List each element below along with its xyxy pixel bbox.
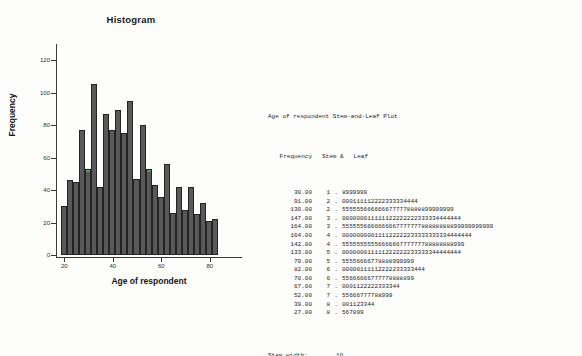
histogram-panel: Histogram 020406080100120 20406080 Frequ…	[0, 0, 262, 300]
bar-highlight-cap	[147, 170, 151, 172]
spss-output-page: Histogram 020406080100120 20406080 Frequ…	[0, 0, 582, 356]
stem-leaf-stem: 3	[322, 215, 330, 224]
bar-highlight-cap	[86, 170, 90, 172]
y-tick-label: 20	[22, 220, 50, 226]
y-tick-label: 120	[22, 57, 50, 63]
stem-leaf-row: 30.001.8999999	[268, 189, 582, 198]
stem-leaf-separator: .	[330, 189, 342, 198]
stem-leaf-row: 147.003.00000001111112222222233333444444…	[268, 215, 582, 224]
stem-leaf-separator: .	[330, 249, 342, 258]
stem-leaf-leaf: 001123344	[342, 301, 374, 310]
stem-leaf-frequency: 30.00	[268, 189, 312, 198]
x-tick	[64, 258, 65, 262]
x-tick-label: 80	[200, 263, 220, 269]
stem-leaf-leaf: 8999999	[342, 189, 367, 198]
stem-leaf-leaf: 0001122222333344	[342, 283, 400, 292]
stem-leaf-row: 164.003.55555566666666677777778888888889…	[268, 223, 582, 232]
stem-leaf-rows: 30.001.899999991.002.0001111122223333344…	[268, 189, 582, 318]
stem-leaf-separator: .	[330, 266, 342, 275]
stem-leaf-separator: .	[330, 301, 342, 310]
stem-leaf-leaf: 567899	[342, 309, 364, 318]
stem-leaf-frequency: 70.00	[268, 275, 312, 284]
stem-leaf-separator: .	[330, 206, 342, 215]
stem-leaf-separator: .	[330, 198, 342, 207]
stem-leaf-row: 142.004.55555555556666667777777888888889…	[268, 241, 582, 250]
stem-leaf-frequency: 147.00	[268, 215, 312, 224]
x-tick-label: 20	[54, 263, 74, 269]
stem-leaf-stem: 3	[322, 223, 330, 232]
y-tick	[51, 60, 56, 61]
stem-leaf-stem: 4	[322, 241, 330, 250]
stem-leaf-separator: .	[330, 232, 342, 241]
stem-leaf-separator: .	[330, 309, 342, 318]
y-tick-label: 100	[22, 90, 50, 96]
histogram-bar	[212, 219, 218, 255]
x-tick	[210, 258, 211, 262]
stem-leaf-frequency: 79.00	[268, 258, 312, 267]
y-axis-label: Frequency	[7, 55, 17, 175]
y-tick	[51, 223, 56, 224]
x-tick-label: 40	[103, 263, 123, 269]
stem-leaf-row: 67.007.0001122222333344	[268, 283, 582, 292]
stem-leaf-leaf: 5555556666666777778888899999999	[342, 206, 454, 215]
stem-leaf-stem: 8	[322, 301, 330, 310]
stem-leaf-leaf: 5555556666666667777777888888888999999999…	[342, 223, 493, 232]
stem-leaf-heading: Age of respondent Stem-and-Leaf Plot	[268, 113, 582, 122]
stem-leaf-stem: 6	[322, 266, 330, 275]
stem-leaf-stem: 5	[322, 249, 330, 258]
y-tick	[51, 158, 56, 159]
stem-leaf-frequency: 67.00	[268, 283, 312, 292]
stem-leaf-row: 70.006.55666666777778888899	[268, 275, 582, 284]
header-frequency: Frequency	[268, 153, 312, 162]
stem-leaf-separator: .	[330, 292, 342, 301]
x-axis-line	[56, 257, 242, 258]
stem-leaf-stem: 8	[322, 309, 330, 318]
stem-leaf-frequency: 27.00	[268, 309, 312, 318]
stem-leaf-footer-label: Stem width:	[268, 352, 336, 356]
stem-leaf-stem: 7	[322, 292, 330, 301]
stem-leaf-stem: 1	[322, 189, 330, 198]
stem-leaf-row: 52.007.55666777788999	[268, 292, 582, 301]
stem-leaf-stem: 2	[322, 198, 330, 207]
stem-leaf-frequency: 164.00	[268, 223, 312, 232]
stem-leaf-frequency: 164.00	[268, 232, 312, 241]
stem-leaf-row: 82.006.00000111112222233333444	[268, 266, 582, 275]
stem-leaf-stem: 6	[322, 275, 330, 284]
stem-leaf-leaf: 000000011111122222222333334444444	[342, 215, 461, 224]
x-tick	[161, 258, 162, 262]
y-tick-label: 80	[22, 122, 50, 128]
stem-leaf-stem: 2	[322, 206, 330, 215]
stem-leaf-column-headers: FrequencyStem &Leaf	[268, 153, 582, 162]
stem-leaf-separator: .	[330, 258, 342, 267]
stem-leaf-leaf: 000111112222333334444	[342, 198, 418, 207]
histogram-title: Histogram	[0, 14, 262, 25]
stem-leaf-row: 27.008.567899	[268, 309, 582, 318]
stem-leaf-leaf: 55666777788999	[342, 292, 392, 301]
y-tick	[51, 93, 56, 94]
stem-leaf-footer-row: Stem width:10	[268, 352, 582, 356]
stem-leaf-row: 79.005.55556666778888999999	[268, 258, 582, 267]
y-tick-label: 0	[22, 252, 50, 258]
stem-leaf-row: 133.005.00000001111122222223333334444444…	[268, 249, 582, 258]
x-tick	[113, 258, 114, 262]
stem-leaf-row: 130.002.5555556666666777778888899999999	[268, 206, 582, 215]
header-stem: Stem &	[322, 153, 344, 160]
stem-and-leaf-panel: Age of respondent Stem-and-Leaf Plot Fre…	[268, 96, 582, 356]
stem-leaf-frequency: 91.00	[268, 198, 312, 207]
stem-leaf-separator: .	[330, 215, 342, 224]
stem-leaf-footer: Stem width:10Each leaf:4 case(s)	[268, 352, 582, 356]
stem-leaf-frequency: 39.00	[268, 301, 312, 310]
stem-leaf-leaf: 55556666778888999999	[342, 258, 414, 267]
stem-leaf-separator: .	[330, 283, 342, 292]
y-tick-label: 60	[22, 155, 50, 161]
stem-leaf-stem: 4	[322, 232, 330, 241]
stem-leaf-separator: .	[330, 241, 342, 250]
x-axis-label: Age of respondent	[56, 276, 242, 286]
y-tick	[51, 125, 56, 126]
stem-leaf-leaf: 00000111112222233333444	[342, 266, 425, 275]
stem-leaf-separator: .	[330, 275, 342, 284]
stem-leaf-stem: 7	[322, 283, 330, 292]
stem-leaf-row: 91.002.000111112222333334444	[268, 198, 582, 207]
stem-leaf-row: 39.008.001123344	[268, 301, 582, 310]
x-tick-label: 60	[151, 263, 171, 269]
